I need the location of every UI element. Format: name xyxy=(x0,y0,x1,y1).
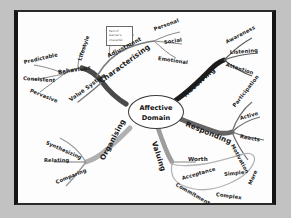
note-box-text: Part of learner's character xyxy=(109,29,130,42)
center-label-line2: Domain xyxy=(128,114,184,122)
center-label-line1: Affective xyxy=(128,104,184,112)
diagram-sheet: Affective Domain Part of learner's chara… xyxy=(18,12,272,203)
center-node[interactable] xyxy=(128,95,184,129)
image-canvas: Affective Domain Part of learner's chara… xyxy=(0,0,291,218)
diagram-frame: Affective Domain Part of learner's chara… xyxy=(14,10,276,205)
node-label-worth[interactable]: Worth xyxy=(188,157,208,163)
node-label-relating[interactable]: Relating xyxy=(44,158,69,163)
